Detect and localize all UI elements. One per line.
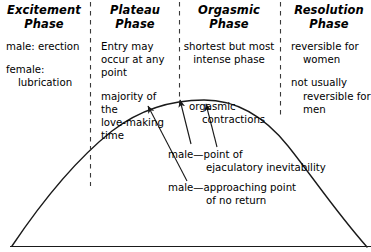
heading-line2: Phase	[209, 17, 249, 31]
body-paragraph: Entry may occur at any point	[101, 40, 175, 80]
body-line: women	[291, 53, 371, 66]
body-paragraph: not usually reversible for men	[291, 76, 371, 116]
body-line: men	[291, 103, 371, 116]
body-paragraph: shortest but most intense phase	[179, 40, 279, 66]
body-line: majority of the	[101, 91, 156, 115]
column-heading-resolution: Resolution Phase	[287, 4, 371, 31]
annotation-line: orgasmic	[189, 101, 236, 112]
column-body-orgasmic: shortest but most intense phase	[179, 40, 279, 66]
body-line: not usually	[291, 77, 347, 88]
annotation-line: contractions	[189, 113, 265, 126]
column-heading-plateau: Plateau Phase	[95, 4, 175, 31]
body-line: reversible for	[291, 41, 359, 52]
heading-line2: Phase	[309, 17, 349, 31]
column-body-excitement: male: erection female: lubrication	[0, 40, 88, 90]
body-line: point	[101, 67, 127, 78]
body-line: intense phase	[193, 54, 265, 65]
body-line: occur at any	[101, 54, 165, 65]
annotation-line: of no return	[168, 194, 296, 207]
annotation-ejaculatory-inevitability: male—point of ejaculatory inevitability	[168, 148, 326, 174]
body-paragraph: reversible for women	[291, 40, 371, 66]
column-heading-orgasmic: Orgasmic Phase	[179, 4, 279, 31]
heading-line1: Resolution	[294, 3, 363, 17]
heading-line1: Excitement	[7, 3, 81, 17]
heading-line1: Plateau	[110, 3, 160, 17]
body-paragraph: male: erection	[6, 40, 88, 53]
body-line: reversible for	[291, 90, 371, 103]
column-excitement-phase: Excitement Phase male: erection female: …	[0, 4, 88, 90]
body-paragraph: female: lubrication	[6, 63, 88, 89]
annotation-orgasmic-contractions: orgasmic contractions	[189, 100, 265, 126]
body-line: lubrication	[6, 76, 88, 89]
heading-line1: Orgasmic	[198, 3, 260, 17]
annotation-point-of-no-return: male—approaching point of no return	[168, 181, 296, 207]
column-body-plateau: Entry may occur at any point majority of…	[95, 40, 175, 142]
annotation-line: male—point of	[168, 149, 243, 160]
body-line: time	[101, 130, 124, 141]
annotation-line: ejaculatory inevitability	[168, 161, 326, 174]
body-line: shortest but most	[184, 41, 275, 52]
body-paragraph: majority of the love-making time	[101, 90, 175, 143]
column-orgasmic-phase: Orgasmic Phase shortest but most intense…	[179, 4, 279, 66]
heading-line2: Phase	[115, 17, 155, 31]
column-resolution-phase: Resolution Phase reversible for women no…	[287, 4, 371, 116]
annotation-line: male—approaching point	[168, 182, 296, 193]
column-heading-excitement: Excitement Phase	[0, 4, 88, 31]
body-line: female:	[6, 64, 45, 75]
column-plateau-phase: Plateau Phase Entry may occur at any poi…	[95, 4, 175, 142]
column-body-resolution: reversible for women not usually reversi…	[287, 40, 371, 116]
body-line: love-making	[101, 117, 164, 128]
body-line: Entry may	[101, 41, 154, 52]
sexual-response-cycle-figure: Excitement Phase male: erection female: …	[0, 0, 371, 252]
body-line: male: erection	[6, 41, 80, 52]
heading-line2: Phase	[24, 17, 64, 31]
